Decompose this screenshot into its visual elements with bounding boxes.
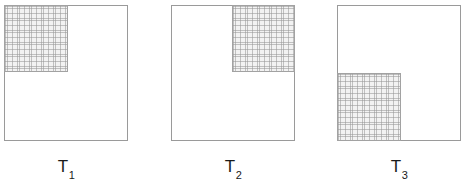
panel-1 <box>4 5 128 141</box>
panel-label-1-subscript: 1 <box>69 169 75 181</box>
shaded-region-bottom-left-3 <box>337 73 401 141</box>
panel-2 <box>171 5 295 141</box>
panel-label-3: T3 <box>359 158 439 178</box>
panel-label-2-subscript: 2 <box>236 169 242 181</box>
shaded-region-top-left-1 <box>4 5 68 72</box>
panel-label-2-base: T <box>225 157 235 176</box>
shaded-region-top-right-2 <box>232 5 295 72</box>
panel-label-2: T2 <box>193 158 273 178</box>
panel-label-1-base: T <box>58 157 68 176</box>
panel-label-3-base: T <box>391 157 401 176</box>
panel-3 <box>337 5 461 141</box>
panel-label-1: T1 <box>26 158 106 178</box>
panel-label-3-subscript: 3 <box>402 169 408 181</box>
